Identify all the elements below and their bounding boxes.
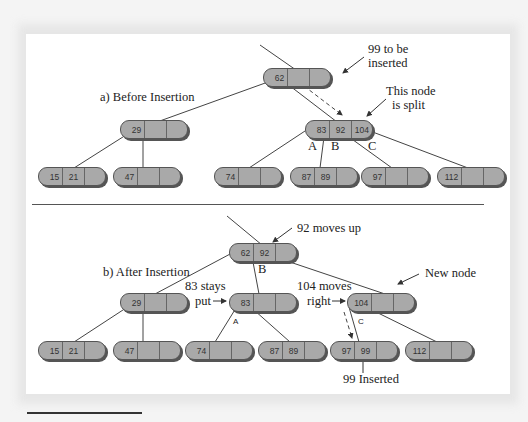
btree-node-before-root: 62 — [263, 68, 331, 87]
node-key-cell: 97 — [362, 168, 386, 185]
node-key-cell — [430, 342, 451, 359]
title-after: b) After Insertion — [103, 266, 190, 279]
node-key-cell — [288, 69, 309, 86]
section-divider — [32, 204, 484, 205]
caption-rule — [27, 412, 142, 414]
btree-node-before-right: 8392104 — [305, 120, 373, 139]
label-a-after: A — [233, 315, 238, 328]
annotation-stays: 83 stays — [185, 280, 226, 293]
node-key-cell — [386, 168, 407, 185]
annotation-new-node: New node — [425, 267, 476, 280]
btree-node-after-leaf3: 74 — [185, 341, 253, 360]
btree-node-before-leaf4: 8789 — [290, 167, 358, 186]
node-key-cell: 89 — [315, 168, 336, 185]
node-key-cell: 74 — [186, 342, 210, 359]
annotation-to-insert-2: inserted — [368, 57, 408, 70]
node-key-cell: 92 — [254, 244, 275, 261]
node-key-cell — [276, 244, 296, 261]
node-key-cell — [462, 168, 483, 185]
node-key-cell — [372, 294, 393, 311]
btree-node-after-n104: 104 — [347, 293, 415, 312]
label-c-after: C — [358, 315, 364, 328]
node-key-cell — [167, 121, 187, 138]
node-key-cell: 104 — [348, 294, 372, 311]
btree-node-after-leaf1: 1521 — [38, 341, 106, 360]
annotation-moves-up: 92 moves up — [297, 222, 361, 235]
node-key-cell: 97 — [331, 342, 355, 359]
node-key-cell: 15 — [39, 342, 63, 359]
btree-node-after-root: 6292 — [229, 243, 297, 262]
btree-node-before-leaf1: 1521 — [38, 167, 106, 186]
label-b-before: B — [331, 140, 339, 153]
node-key-cell: 83 — [306, 121, 330, 138]
node-key-cell — [310, 69, 330, 86]
node-key-cell — [254, 294, 275, 311]
node-key-cell — [160, 168, 180, 185]
node-key-cell: 62 — [264, 69, 288, 86]
node-key-cell — [452, 342, 472, 359]
node-key-cell — [145, 121, 166, 138]
node-key-cell: 29 — [121, 294, 145, 311]
node-key-cell — [167, 294, 187, 311]
node-key-cell — [305, 342, 325, 359]
annotation-inserted: 99 Inserted — [343, 373, 399, 386]
annotation-stays-2: put — [195, 295, 211, 308]
node-key-cell: 83 — [230, 294, 254, 311]
btree-node-after-leaf5: 9799 — [330, 341, 398, 360]
btree-node-after-leaf6: 112 — [405, 341, 473, 360]
node-key-cell — [408, 168, 428, 185]
node-key-cell — [377, 342, 397, 359]
btree-node-before-leaf6: 112 — [437, 167, 505, 186]
node-key-cell — [337, 168, 357, 185]
node-key-cell — [85, 342, 105, 359]
node-key-cell — [85, 168, 105, 185]
node-key-cell — [484, 168, 504, 185]
node-key-cell — [239, 168, 260, 185]
title-before: a) Before Insertion — [100, 91, 194, 104]
label-b-after: B — [258, 263, 266, 276]
node-key-cell: 47 — [114, 342, 138, 359]
node-key-cell: 47 — [114, 168, 138, 185]
btree-node-after-n83: 83 — [229, 293, 297, 312]
node-key-cell: 92 — [330, 121, 351, 138]
node-key-cell: 29 — [121, 121, 145, 138]
node-key-cell — [145, 294, 166, 311]
annotation-moves-right-2: right — [307, 295, 331, 308]
node-key-cell — [160, 342, 180, 359]
node-key-cell — [232, 342, 252, 359]
btree-node-after-leaf4: 8789 — [258, 341, 326, 360]
node-key-cell — [138, 168, 159, 185]
label-a-before: A — [308, 140, 317, 153]
node-key-cell: 89 — [283, 342, 304, 359]
node-key-cell — [138, 342, 159, 359]
node-key-cell: 15 — [39, 168, 63, 185]
node-key-cell: 74 — [215, 168, 239, 185]
node-key-cell: 112 — [406, 342, 430, 359]
node-key-cell: 21 — [63, 168, 84, 185]
annotation-moves-right: 104 moves — [297, 280, 352, 293]
btree-node-before-leaf2: 47 — [113, 167, 181, 186]
node-key-cell — [210, 342, 231, 359]
btree-node-before-leaf5: 97 — [361, 167, 429, 186]
btree-node-before-left: 29 — [120, 120, 188, 139]
node-key-cell: 87 — [291, 168, 315, 185]
btree-node-before-leaf3: 74 — [214, 167, 282, 186]
node-key-cell — [276, 294, 296, 311]
label-c-before: C — [368, 140, 376, 153]
btree-node-after-leaf2: 47 — [113, 341, 181, 360]
annotation-split: This node — [386, 85, 436, 98]
node-key-cell: 87 — [259, 342, 283, 359]
node-key-cell: 21 — [63, 342, 84, 359]
node-key-cell: 104 — [352, 121, 372, 138]
node-key-cell — [394, 294, 414, 311]
node-key-cell: 62 — [230, 244, 254, 261]
node-key-cell: 99 — [355, 342, 376, 359]
node-key-cell — [261, 168, 281, 185]
node-key-cell: 112 — [438, 168, 462, 185]
annotation-split-2: is split — [392, 99, 425, 112]
annotation-to-insert: 99 to be — [368, 43, 408, 56]
btree-node-after-n29: 29 — [120, 293, 188, 312]
